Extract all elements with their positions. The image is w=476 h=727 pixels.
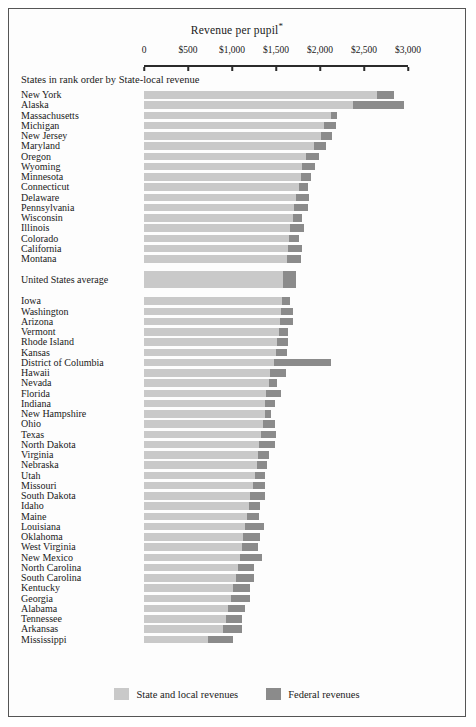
bar-segment-state-local [144, 245, 288, 253]
bar-row: Rhode Island [9, 337, 465, 347]
bar-segment-state-local [144, 297, 282, 305]
bar-row: District of Columbia [9, 358, 465, 368]
bar-row: Louisiana [9, 522, 465, 532]
bar-segment-federal [270, 369, 286, 377]
axis-tick-label: 0 [142, 45, 147, 55]
bar-segment-state-local [144, 318, 280, 326]
bar-row: North Dakota [9, 440, 465, 450]
bar-segment-state-local [144, 543, 242, 551]
bar-segment-state-local [144, 420, 263, 428]
bar-segment-federal [293, 214, 303, 222]
bar-row: Alabama [9, 604, 465, 614]
bar-segment-state-local [144, 595, 231, 603]
axis-tick-mark [407, 67, 409, 71]
stacked-bar [144, 605, 245, 613]
stacked-bar [144, 318, 293, 326]
bar-row: Mississippi [9, 635, 465, 645]
bar-row-label: Idaho [21, 501, 44, 511]
stacked-bar [144, 224, 304, 232]
bar-segment-federal [247, 513, 259, 521]
bar-segment-federal [281, 308, 293, 316]
bar-segment-federal [228, 605, 245, 613]
bar-row-label: Illinois [21, 223, 49, 233]
stacked-bar [144, 584, 250, 592]
stacked-bar [144, 308, 293, 316]
stacked-bar [144, 461, 267, 469]
stacked-bar [144, 297, 290, 305]
bar-segment-state-local [144, 379, 269, 387]
bar-segment-state-local [144, 255, 287, 263]
bar-row: Connecticut [9, 182, 465, 192]
stacked-bar [144, 101, 404, 109]
stacked-bar [144, 502, 260, 510]
bar-segment-state-local [144, 564, 238, 572]
stacked-bar [144, 400, 275, 408]
bar-segment-federal [249, 502, 260, 510]
bar-segment-federal [265, 400, 274, 408]
bar-row: Delaware [9, 193, 465, 203]
bar-row: Florida [9, 389, 465, 399]
bar-segment-federal [233, 584, 250, 592]
stacked-bar [144, 235, 299, 243]
bar-segment-state-local [144, 369, 270, 377]
stacked-bar [144, 513, 259, 521]
legend-item-federal: Federal revenues [266, 688, 359, 700]
stacked-bar [144, 410, 271, 418]
bar-segment-state-local [144, 122, 324, 130]
bar-row: Virginia [9, 450, 465, 460]
bar-segment-federal [259, 441, 274, 449]
bar-segment-state-local [144, 400, 265, 408]
bar-segment-state-local [144, 636, 208, 644]
stacked-bar [144, 328, 288, 336]
axis-tick-label: $1,500 [263, 45, 289, 55]
axis-tick-mark [187, 67, 189, 71]
stacked-bar [144, 533, 260, 541]
bar-segment-federal [240, 554, 262, 562]
average-row: United States average [9, 270, 465, 290]
bar-segment-state-local [144, 91, 377, 99]
bar-row: Colorado [9, 234, 465, 244]
bar-segment-state-local [144, 390, 266, 398]
bar-row-label: Nevada [21, 378, 52, 388]
bar-segment-federal [253, 482, 265, 490]
chart-title: Revenue per pupil* [9, 21, 465, 36]
bar-segment-state-local [144, 574, 236, 582]
stacked-bar [144, 390, 281, 398]
bar-row-label: Connecticut [21, 182, 69, 192]
chart-legend: State and local revenues Federal revenue… [9, 688, 465, 700]
axis-tick-mark [143, 67, 145, 71]
axis-tick-label: $2,000 [307, 45, 333, 55]
legend-item-state-local: State and local revenues [114, 688, 238, 700]
bar-row: Iowa [9, 296, 465, 306]
bar-row-label: Mississippi [21, 635, 67, 645]
bar-segment-state-local [144, 271, 283, 288]
bar-row: Kentucky [9, 583, 465, 593]
bar-row: South Carolina [9, 573, 465, 583]
stacked-bar [144, 122, 336, 130]
bar-segment-state-local [144, 173, 301, 181]
bar-segment-federal [238, 564, 254, 572]
axis-tick-mark [319, 67, 321, 71]
bar-segment-state-local [144, 308, 281, 316]
bar-segment-federal [243, 533, 259, 541]
bar-row: Oklahoma [9, 532, 465, 542]
stacked-bar [144, 132, 332, 140]
bar-row: Arizona [9, 317, 465, 327]
chart-title-text: Revenue per pupil [191, 24, 279, 36]
bar-segment-state-local [144, 482, 253, 490]
bar-row-label: Nebraska [21, 460, 59, 470]
bar-segment-federal [223, 625, 242, 633]
stacked-bar [144, 625, 242, 633]
stacked-bar [144, 142, 326, 150]
x-axis: 0$500$1,000$1,500$2,000$2,500$3,000 [9, 45, 465, 73]
stacked-bar [144, 595, 250, 603]
bar-segment-state-local [144, 502, 249, 510]
bar-row: Missouri [9, 481, 465, 491]
stacked-bar [144, 420, 275, 428]
bar-segment-federal [302, 163, 315, 171]
bar-row: Georgia [9, 594, 465, 604]
bar-row: Texas [9, 430, 465, 440]
bar-segment-state-local [144, 101, 353, 109]
bar-row-label: Ohio [21, 419, 41, 429]
axis-tick-label: $1,000 [219, 45, 245, 55]
